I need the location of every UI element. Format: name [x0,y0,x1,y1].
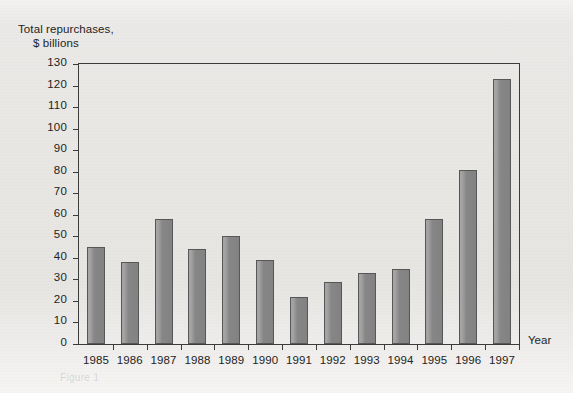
y-tick-mark [73,193,79,194]
y-tick-label: 130 [7,56,67,68]
y-tick-label: 60 [7,207,67,219]
y-tick-mark [73,258,79,259]
bar-1994 [392,269,410,344]
y-tick-label: 110 [7,99,67,111]
bar-1988 [188,249,206,344]
y-tick-mark [73,344,79,345]
y-tick-label: 80 [7,164,67,176]
plot-area: 0102030405060708090100110120130 19851986… [78,63,520,345]
bar-1989 [222,236,240,344]
y-tick-mark [73,129,79,130]
y-axis-title-line2: $ billions [33,36,79,50]
bar-1997 [493,79,511,344]
x-tick-mark [214,344,215,350]
bar-1986 [121,262,139,344]
y-tick-label: 20 [7,293,67,305]
y-tick-label: 50 [7,228,67,240]
x-tick-mark [350,344,351,350]
y-tick-mark [73,107,79,108]
y-tick-mark [73,150,79,151]
bar-1992 [324,282,342,344]
y-tick-label: 0 [7,336,67,348]
y-tick-label: 90 [7,142,67,154]
x-tick-mark [485,344,486,350]
y-tick-mark [73,322,79,323]
y-tick-label: 100 [7,121,67,133]
y-tick-label: 70 [7,185,67,197]
bar-1985 [87,247,105,344]
y-tick-label: 10 [7,314,67,326]
y-tick-mark [73,172,79,173]
x-tick-mark [181,344,182,350]
x-tick-mark [417,344,418,350]
bar-1991 [290,297,308,344]
x-tick-mark [519,344,520,350]
x-tick-mark [384,344,385,350]
x-tick-label: 1997 [480,354,524,366]
y-tick-mark [73,215,79,216]
x-axis-title: Year [528,334,551,346]
x-tick-mark [147,344,148,350]
bar-1990 [256,260,274,344]
x-tick-mark [316,344,317,350]
y-axis-title-line1: Total repurchases, [18,22,114,36]
y-tick-mark [73,301,79,302]
y-tick-label: 120 [7,78,67,90]
bar-1987 [155,219,173,344]
y-tick-mark [73,86,79,87]
caption-ghost-text: Figure 1 [60,372,99,383]
bar-chart-figure: Total repurchases, $ billions 0102030405… [0,0,573,393]
x-tick-mark [282,344,283,350]
bar-1995 [425,219,443,344]
bar-1993 [358,273,376,344]
x-tick-mark [451,344,452,350]
y-tick-mark [73,236,79,237]
y-tick-mark [73,279,79,280]
x-tick-mark [113,344,114,350]
y-tick-mark [73,64,79,65]
y-tick-label: 40 [7,250,67,262]
bar-1996 [459,170,477,344]
y-tick-label: 30 [7,271,67,283]
x-tick-mark [248,344,249,350]
